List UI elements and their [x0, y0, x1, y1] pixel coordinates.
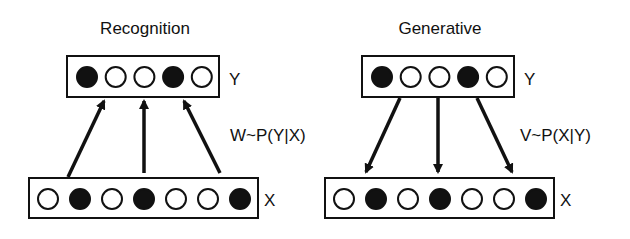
- inactive-unit: [398, 189, 418, 209]
- recognition-y-units: [77, 67, 212, 87]
- generative-title: Generative: [398, 19, 481, 38]
- active-unit: [458, 67, 478, 87]
- active-unit: [163, 67, 183, 87]
- recognition-generative-diagram: Recognition Y X W~P(Y|X) Generative Y X …: [0, 0, 630, 239]
- inactive-unit: [38, 189, 58, 209]
- recognition-weight-label: W~P(Y|X): [230, 126, 306, 145]
- active-unit: [70, 189, 90, 209]
- active-unit: [77, 67, 97, 87]
- recognition-title: Recognition: [100, 19, 190, 38]
- inactive-unit: [429, 67, 449, 87]
- inactive-unit: [134, 67, 154, 87]
- arrow-down-icon: [366, 98, 400, 172]
- recognition-arrows: [68, 101, 220, 177]
- active-unit: [230, 189, 250, 209]
- arrow-down-icon: [477, 98, 512, 172]
- inactive-unit: [334, 189, 354, 209]
- active-unit: [366, 189, 386, 209]
- inactive-unit: [102, 189, 122, 209]
- inactive-unit: [401, 67, 421, 87]
- generative-weight-label: V~P(X|Y): [520, 126, 591, 145]
- generative-y-label: Y: [524, 70, 535, 89]
- arrow-up-icon: [68, 101, 104, 177]
- recognition-x-units: [38, 189, 250, 209]
- active-unit: [134, 189, 154, 209]
- inactive-unit: [462, 189, 482, 209]
- inactive-unit: [192, 67, 212, 87]
- generative-arrows: [366, 98, 512, 172]
- recognition-x-label: X: [264, 191, 275, 210]
- recognition-y-label: Y: [229, 70, 240, 89]
- inactive-unit: [106, 67, 126, 87]
- active-unit: [372, 67, 392, 87]
- inactive-unit: [166, 189, 186, 209]
- generative-x-label: X: [560, 191, 571, 210]
- generative-x-units: [334, 189, 546, 209]
- active-unit: [526, 189, 546, 209]
- recognition-panel: Recognition Y X W~P(Y|X): [29, 19, 306, 218]
- inactive-unit: [494, 189, 514, 209]
- active-unit: [430, 189, 450, 209]
- generative-panel: Generative Y X V~P(X|Y): [325, 19, 591, 218]
- inactive-unit: [198, 189, 218, 209]
- generative-y-units: [372, 67, 507, 87]
- arrow-up-icon: [184, 101, 220, 173]
- inactive-unit: [487, 67, 507, 87]
